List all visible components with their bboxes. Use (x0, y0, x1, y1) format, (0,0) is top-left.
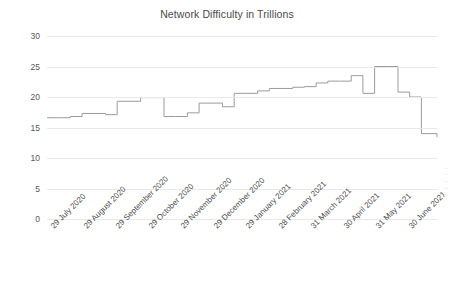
gridline-y-30 (47, 36, 437, 37)
gridline-y-0 (47, 219, 437, 220)
gridline-y-10 (47, 158, 437, 159)
gridline-y-25 (47, 67, 437, 68)
y-axis: 051015202530 (0, 0, 47, 301)
artifact-mark (444, 174, 448, 175)
y-tick-label: 0 (35, 214, 40, 224)
gridline-y-20 (47, 97, 437, 98)
y-tick-label: 30 (31, 31, 40, 41)
y-tick-label: 25 (31, 62, 40, 72)
chart-title: Network Difficulty in Trillions (0, 8, 454, 20)
gridline-y-15 (47, 128, 437, 129)
edge-artifacts (443, 168, 448, 208)
artifact-mark (444, 195, 448, 196)
chart-container: Network Difficulty in Trillions 05101520… (0, 0, 454, 301)
gridline-y-5 (47, 189, 437, 190)
artifact-mark (444, 188, 448, 189)
y-tick-label: 20 (31, 92, 40, 102)
artifact-mark (444, 181, 448, 182)
artifact-mark (444, 168, 448, 169)
plot-area (47, 36, 437, 219)
y-tick-label: 10 (31, 153, 40, 163)
y-tick-label: 5 (35, 184, 40, 194)
y-tick-label: 15 (31, 123, 40, 133)
